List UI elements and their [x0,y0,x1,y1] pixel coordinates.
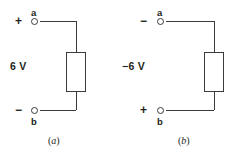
caption-b-close: ) [186,135,189,146]
voltage-label-a: 6 V [10,61,27,72]
figure-two-circuits: + a − b 6 V (a) − a + b [0,0,226,161]
bottom-node-label-a: b [31,117,37,127]
bottom-lead-wire-b [214,92,215,110]
bottom-node-label-b: b [157,117,163,127]
bottom-terminal-dot-a[interactable] [31,107,38,114]
caption-a-close: ) [56,135,59,146]
voltage-label-b: −6 V [122,61,145,72]
top-terminal-sign-a: + [15,15,22,27]
bottom-terminal-dot-b[interactable] [157,107,164,114]
top-terminal-dot-b[interactable] [157,18,164,25]
top-wire-b [166,21,214,22]
bottom-wire-b [166,110,214,111]
top-lead-wire-a [76,21,77,52]
bottom-terminal-sign-a: − [15,104,22,116]
top-wire-a [40,21,76,22]
caption-b: (b) [178,136,190,146]
circuit-element-box-a [66,52,86,92]
top-lead-wire-b [214,21,215,52]
bottom-terminal-sign-b: + [140,104,147,116]
circuit-diagram-a: + a − b 6 V (a) [0,0,113,161]
caption-a: (a) [48,136,60,146]
top-terminal-dot-a[interactable] [31,18,38,25]
top-terminal-sign-b: − [140,15,147,27]
bottom-wire-a [40,110,76,111]
circuit-element-box-b [204,52,224,92]
top-node-label-a: a [31,8,36,18]
top-node-label-b: a [157,8,162,18]
bottom-lead-wire-a [76,92,77,110]
circuit-diagram-b: − a + b −6 V (b) [113,0,226,161]
